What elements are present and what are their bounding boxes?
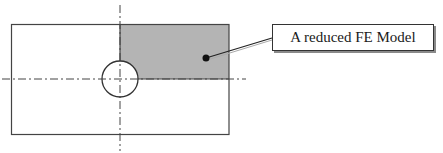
callout-label-box: A reduced FE Model	[272, 24, 434, 51]
fe-model-diagram	[0, 0, 443, 153]
callout-dot	[203, 55, 210, 62]
callout-label: A reduced FE Model	[290, 29, 415, 46]
